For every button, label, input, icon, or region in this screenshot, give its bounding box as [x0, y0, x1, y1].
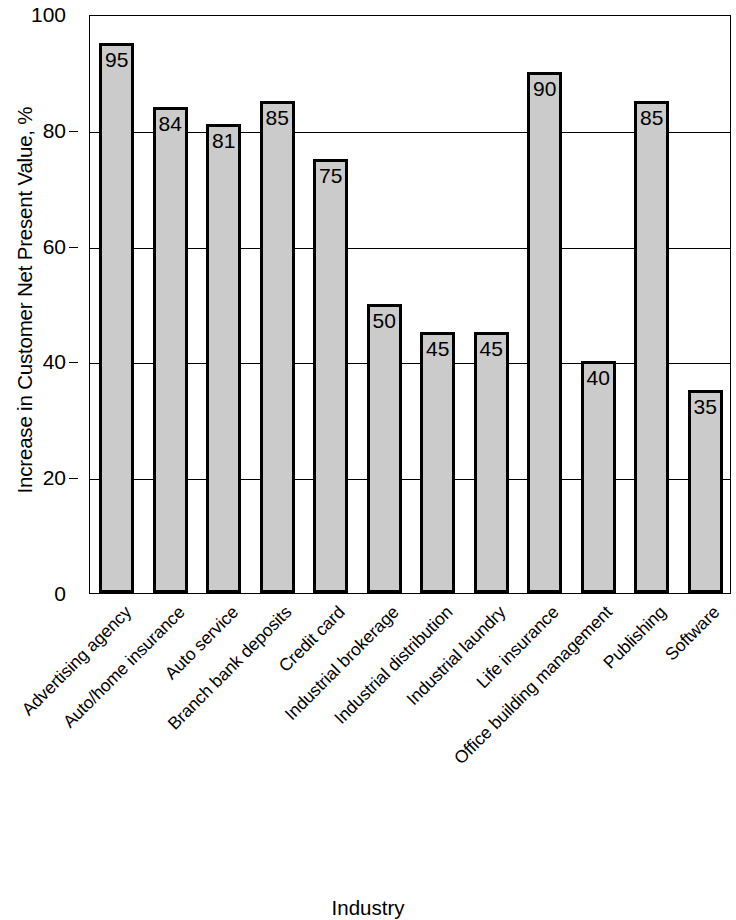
y-tick-mark [69, 247, 78, 248]
y-tick-label: 0 [0, 583, 66, 604]
bar: 90 [527, 72, 562, 593]
bar: 45 [474, 332, 509, 593]
bar: 95 [99, 43, 134, 593]
bar-value-label: 85 [263, 106, 292, 130]
bar: 40 [581, 361, 616, 593]
bar-value-label: 81 [209, 129, 238, 153]
bar-value-label: 45 [423, 337, 452, 361]
bar-value-label: 35 [691, 395, 720, 419]
bar-value-label: 40 [584, 366, 613, 390]
y-tick-mark [69, 362, 78, 363]
bar-value-label: 45 [477, 337, 506, 361]
y-tick-label: 100 [0, 4, 66, 25]
bar: 85 [634, 101, 669, 593]
y-tick-label: 40 [0, 351, 66, 372]
bar: 35 [688, 390, 723, 593]
bar-value-label: 75 [316, 164, 345, 188]
bar-value-label: 90 [530, 77, 559, 101]
bar: 75 [313, 159, 348, 593]
y-tick-label: 60 [0, 236, 66, 257]
bar: 50 [367, 304, 402, 594]
y-axis-title: Increase in Customer Net Present Value, … [6, 0, 44, 600]
bar-value-label: 95 [102, 48, 131, 72]
bar-value-label: 85 [637, 106, 666, 130]
bar-value-label: 84 [156, 112, 185, 136]
x-tick-label: Industrial laundry [403, 603, 509, 709]
y-tick-mark [69, 478, 78, 479]
bar: 85 [260, 101, 295, 593]
bar: 84 [153, 107, 188, 593]
y-tick-mark [69, 131, 78, 132]
y-tick-label: 80 [0, 120, 66, 141]
plot-area: 958481857550454590408535 [89, 15, 731, 594]
bar: 81 [206, 124, 241, 593]
bar-value-label: 50 [370, 309, 399, 333]
bar: 45 [420, 332, 455, 593]
x-axis-title: Industry [0, 896, 736, 920]
x-tick-label: Software [662, 603, 723, 664]
y-tick-label: 20 [0, 467, 66, 488]
